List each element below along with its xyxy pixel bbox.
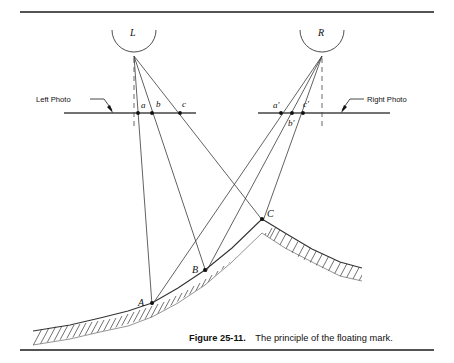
- image-point-a-prime: [279, 111, 283, 115]
- ground-point-A: [150, 301, 154, 305]
- label-image-point-c: c: [182, 99, 186, 109]
- caption-title: The principle of the floating mark.: [255, 333, 392, 343]
- ground-point-B: [203, 268, 207, 272]
- ray-L-to-A: [134, 56, 152, 305]
- ground-point-markers: [150, 217, 264, 305]
- label-image-point-a-prime: a': [273, 100, 281, 110]
- left-photo-annotation: Left Photo: [36, 95, 71, 104]
- ray-L-to-C: [134, 56, 263, 221]
- ray-bundle-left: [134, 56, 263, 305]
- figure-caption: Figure 25-11. The principle of the float…: [189, 327, 393, 344]
- ground-point-C: [260, 217, 264, 221]
- image-point-a: [136, 111, 140, 115]
- label-image-point-a: a: [141, 100, 146, 110]
- left-photo-arrowhead: [107, 105, 113, 113]
- ray-R-to-B: [206, 56, 322, 272]
- image-point-b: [150, 111, 154, 115]
- ray-bundle-right: [152, 56, 322, 305]
- figure-drawing: L R a b c a' b' c' A B C Left Photo Righ…: [0, 0, 454, 363]
- right-photo-leader: [341, 99, 364, 113]
- image-point-c: [178, 111, 182, 115]
- left-photo-leader: [90, 99, 113, 113]
- camera-label-L: L: [129, 27, 136, 38]
- ray-L-to-B: [134, 56, 206, 272]
- ground-profile-line: [33, 219, 362, 331]
- label-image-point-c-prime: c': [303, 99, 310, 109]
- label-ground-point-A: A: [137, 297, 145, 308]
- image-point-b-prime: [290, 111, 294, 115]
- label-image-point-b: b: [156, 99, 161, 109]
- image-point-c-prime: [301, 111, 305, 115]
- label-image-point-b-prime: b': [288, 118, 296, 128]
- ray-R-to-A: [152, 56, 322, 305]
- right-photo-arrowhead: [341, 105, 347, 113]
- camera-label-R: R: [317, 27, 324, 38]
- label-ground-point-B: B: [192, 264, 198, 275]
- figure-container: L R a b c a' b' c' A B C Left Photo Righ…: [0, 0, 454, 363]
- label-ground-point-C: C: [267, 208, 274, 219]
- ray-R-to-C: [263, 56, 322, 221]
- right-photo-annotation: Right Photo: [367, 95, 407, 104]
- caption-figure-number: Figure 25-11.: [189, 333, 246, 343]
